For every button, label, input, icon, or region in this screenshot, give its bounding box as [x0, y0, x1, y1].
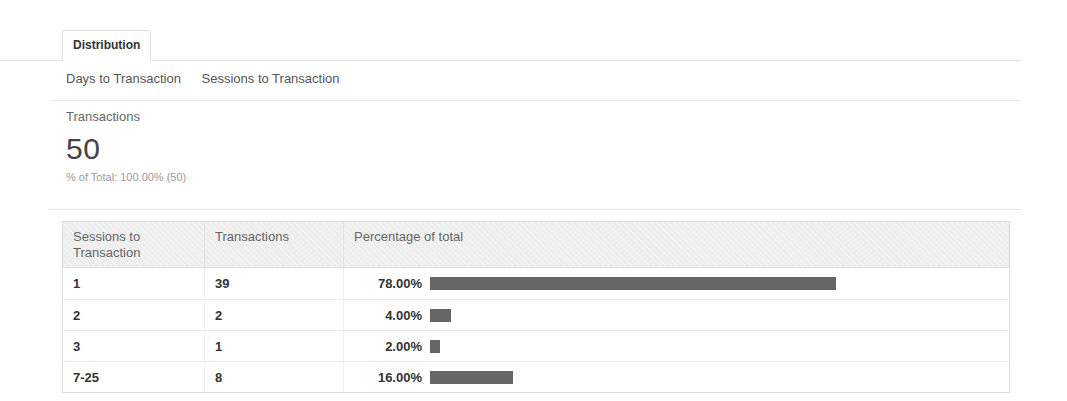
tab-distribution[interactable]: Distribution	[62, 30, 151, 61]
cell-percentage-of-total: 4.00%	[343, 300, 1009, 330]
cell-transactions: 1	[204, 331, 343, 361]
percent-label: 16.00%	[354, 370, 422, 385]
subnav-divider	[50, 100, 1021, 101]
report-page: Distribution Days to Transaction Session…	[0, 0, 1067, 401]
cell-sessions-to-transaction: 1	[63, 268, 204, 299]
cell-transactions: 8	[204, 362, 343, 392]
table-row: 13978.00%	[63, 268, 1009, 299]
cell-percentage-of-total: 78.00%	[343, 268, 1009, 299]
metric-label: Transactions	[66, 109, 186, 124]
subnav-sessions-to-transaction[interactable]: Sessions to Transaction	[202, 71, 340, 86]
tab-bar: Distribution	[0, 30, 1021, 61]
table-row: 312.00%	[63, 330, 1009, 361]
metric-percent-of-total: % of Total: 100.00% (50)	[66, 171, 186, 183]
cell-sessions-to-transaction: 2	[63, 300, 204, 330]
table-body: 13978.00%224.00%312.00%7-25816.00%	[63, 268, 1009, 392]
percent-bar	[430, 371, 513, 384]
column-header-transactions: Transactions	[204, 222, 343, 267]
summary-divider	[48, 209, 1021, 210]
table-row: 224.00%	[63, 299, 1009, 330]
tab-distribution-label: Distribution	[73, 38, 140, 52]
percent-bar	[430, 309, 451, 322]
distribution-table: Sessions to Transaction Transactions Per…	[62, 221, 1010, 393]
cell-transactions: 39	[204, 268, 343, 299]
metric-value: 50	[66, 133, 186, 165]
subnav: Days to Transaction Sessions to Transact…	[66, 71, 357, 86]
cell-transactions: 2	[204, 300, 343, 330]
cell-sessions-to-transaction: 3	[63, 331, 204, 361]
cell-percentage-of-total: 2.00%	[343, 331, 1009, 361]
table-row: 7-25816.00%	[63, 361, 1009, 392]
metric-summary: Transactions 50 % of Total: 100.00% (50)	[66, 109, 186, 183]
table-header-row: Sessions to Transaction Transactions Per…	[63, 222, 1009, 268]
column-header-percentage-of-total: Percentage of total	[343, 222, 1009, 267]
percent-bar	[430, 340, 440, 353]
column-header-sessions-to-transaction: Sessions to Transaction	[63, 222, 204, 267]
subnav-days-to-transaction[interactable]: Days to Transaction	[66, 71, 181, 86]
cell-sessions-to-transaction: 7-25	[63, 362, 204, 392]
percent-bar	[430, 277, 836, 290]
cell-percentage-of-total: 16.00%	[343, 362, 1009, 392]
percent-label: 78.00%	[354, 276, 422, 291]
percent-label: 2.00%	[354, 339, 422, 354]
percent-label: 4.00%	[354, 308, 422, 323]
